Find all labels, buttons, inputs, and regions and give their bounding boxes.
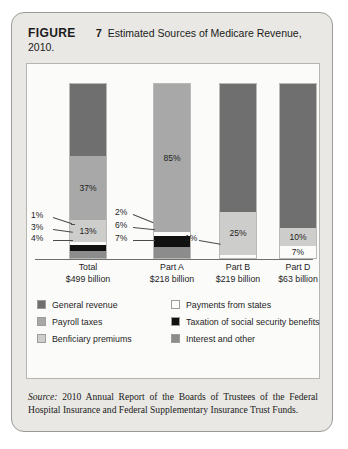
legend-row-2: Payroll taxes Taxation of social securit… (37, 313, 315, 330)
callout-parta-taxation: 6% (115, 220, 127, 230)
legend-item-payroll-taxes[interactable]: Payroll taxes (37, 317, 171, 327)
x-label-total-name: Total (45, 262, 131, 274)
figure-label: FIGURE (28, 26, 76, 40)
legend-row-1: General revenue Payments from states (37, 296, 315, 313)
bar-segment-partd-states-label: 7% (292, 248, 304, 257)
bar-segment-total-payroll-taxes: 37% (70, 156, 106, 220)
bar-segment-total-interest-and-other (70, 251, 106, 258)
bar-segment-total-general-revenue (70, 84, 106, 156)
x-label-total-value: $499 billion (45, 274, 131, 286)
legend-label-interest-and-other: Interest and other (186, 334, 255, 344)
legend-swatch-payments-from-states-icon (171, 300, 180, 309)
figure-header: FIGURE7Estimated Sources of Medicare Rev… (28, 26, 318, 54)
stacked-bar-total: 37% 13% (69, 83, 107, 259)
legend-swatch-taxation-social-security-icon (171, 317, 180, 326)
bar-segment-parta-payroll-taxes: 85% (154, 84, 190, 232)
legend-label-general-revenue: General revenue (52, 300, 118, 310)
callout-total-interest: 4% (31, 233, 43, 243)
x-label-total: Total $499 billion (45, 262, 131, 285)
bar-column-part-b[interactable]: 25% (219, 83, 257, 259)
legend-item-payments-from-states[interactable]: Payments from states (171, 300, 315, 310)
bar-segment-partd-general-revenue (280, 84, 316, 228)
legend-item-taxation-social-security[interactable]: Taxation of social security benefits (171, 317, 315, 327)
legend-swatch-general-revenue-icon (37, 300, 46, 309)
chart-panel: 37% 13% 1% 3% 4% (26, 63, 320, 379)
bar-segment-partd-payments-from-states: 7% (280, 246, 316, 258)
stacked-bar-part-d: 10% 7% (279, 83, 317, 259)
callout-partb-payments-from-states: 1% (185, 233, 197, 243)
bar-segment-total-payroll-label: 37% (79, 184, 96, 193)
bar-segment-total-beneficiary-premiums: 13% (70, 220, 106, 242)
bar-segment-partb-beneficiary-premiums: 25% (220, 212, 256, 255)
legend-swatch-payroll-taxes-icon (37, 317, 46, 326)
leader-line-parta-6 (133, 227, 155, 230)
leader-line-parta-7 (133, 240, 155, 241)
legend-label-beneficiary-premiums: Benficiary premiums (52, 334, 132, 344)
legend-item-general-revenue[interactable]: General revenue (37, 300, 171, 310)
source-note: Source: 2010 Annual Report of the Boards… (28, 391, 318, 416)
callout-total-taxation: 3% (31, 222, 43, 232)
legend-label-payroll-taxes: Payroll taxes (52, 317, 102, 327)
x-axis-labels: Total $499 billion Part A $218 billion P… (27, 262, 321, 292)
bar-column-total[interactable]: 37% 13% (69, 83, 107, 259)
leader-line-total-1b (71, 224, 75, 225)
legend-swatch-beneficiary-premiums-icon (37, 334, 46, 343)
x-label-part-d: Part D $63 billion (255, 262, 341, 285)
bar-segment-parta-interest-and-other (154, 247, 190, 258)
bar-segment-partb-beneficiary-label: 25% (229, 229, 246, 238)
x-label-part-d-name: Part D (255, 262, 341, 274)
leader-line-partb-1 (199, 240, 221, 245)
bar-segment-partb-payments-from-states (220, 255, 256, 258)
bar-segment-partd-beneficiary-label: 10% (289, 233, 306, 242)
callout-total-payments-from-states: 1% (31, 210, 43, 220)
legend-item-interest-and-other[interactable]: Interest and other (171, 334, 315, 344)
x-axis-line (35, 259, 313, 260)
stacked-bar-part-b: 25% (219, 83, 257, 259)
x-label-part-d-value: $63 billion (255, 274, 341, 286)
figure-number: 7 (96, 27, 102, 39)
legend-swatch-interest-and-other-icon (171, 334, 180, 343)
bar-segment-total-beneficiary-label: 13% (79, 227, 96, 236)
chart-legend: General revenue Payments from states Pay… (37, 296, 315, 347)
bar-column-part-d[interactable]: 10% 7% (279, 83, 317, 259)
leader-line-total-4 (53, 240, 73, 241)
figure-card: FIGURE7Estimated Sources of Medicare Rev… (11, 12, 333, 432)
source-note-text: 2010 Annual Report of the Boards of Trus… (28, 391, 318, 415)
plot-area: 37% 13% 1% 3% 4% (27, 70, 321, 260)
source-note-label: Source: (28, 391, 57, 402)
leader-line-parta-2 (133, 214, 154, 223)
legend-row-3: Benficiary premiums Interest and other (37, 330, 315, 347)
bar-segment-parta-payroll-label: 85% (163, 154, 180, 163)
legend-label-payments-from-states: Payments from states (186, 300, 271, 310)
callout-parta-payments-from-states: 2% (115, 207, 127, 217)
bar-segment-partd-beneficiary-premiums: 10% (280, 228, 316, 245)
callout-parta-interest: 7% (115, 233, 127, 243)
bar-segment-partb-general-revenue (220, 84, 256, 212)
legend-item-beneficiary-premiums[interactable]: Benficiary premiums (37, 334, 171, 344)
legend-label-taxation-social-security: Taxation of social security benefits (186, 317, 320, 327)
